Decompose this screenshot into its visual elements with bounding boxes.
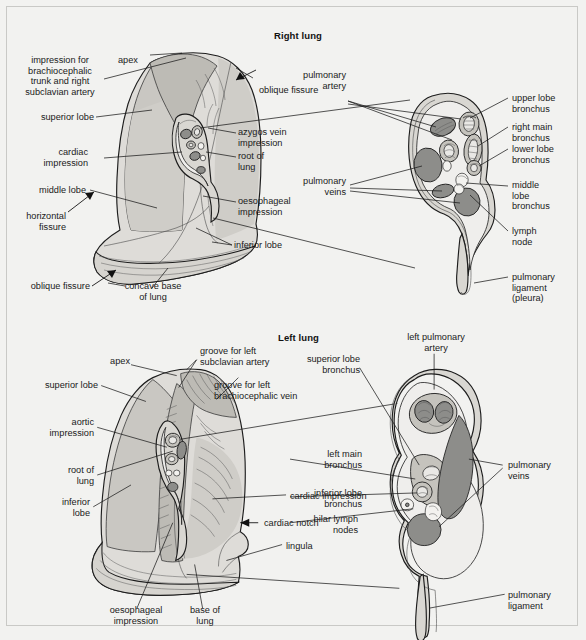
label-aortic-impression: aortic impression xyxy=(10,417,94,438)
label-pulmonary-artery-right: pulmonary artery xyxy=(278,70,346,91)
right-hilum-enlarged xyxy=(409,93,495,294)
label-hilar-lymph-nodes: hilar lymph nodes xyxy=(268,514,358,535)
label-inferior-lobe-right: inferior lobe xyxy=(234,240,282,251)
label-oblique-fissure-bottom: oblique fissure xyxy=(12,281,90,292)
label-left-main-bronchus: left main bronchus xyxy=(288,449,362,470)
label-pulmonary-ligament-left: pulmonary ligament xyxy=(508,590,551,611)
label-pulmonary-ligament-pleura: pulmonary ligament (pleura) xyxy=(512,272,555,304)
label-middle-lobe-bronchus: middle lobe bronchus xyxy=(512,180,550,212)
label-middle-lobe: middle lobe xyxy=(8,185,86,196)
label-upper-lobe-bronchus: upper lobe bronchus xyxy=(512,93,555,114)
label-base-of-lung: base of lung xyxy=(176,605,234,626)
label-oesophageal-impression-left: oesophageal impression xyxy=(94,605,178,626)
label-oesophageal-impression-right: oesophageal impression xyxy=(238,196,291,217)
label-lingula: lingula xyxy=(286,541,313,552)
label-inferior-lobe-bronchus: inferior lobe bronchus xyxy=(276,488,362,509)
label-left-pulmonary-artery: left pulmonary artery xyxy=(390,332,482,353)
label-superior-lobe-left: superior lobe xyxy=(18,380,98,391)
panel-title-left-lung: Left lung xyxy=(278,332,319,343)
label-groove-left-brachiocephalic-vein: groove for left brachiocephalic vein xyxy=(214,380,297,401)
left-hilum-enlarged xyxy=(390,369,483,640)
label-horizontal-fissure: horizontal fissure xyxy=(4,211,66,232)
label-apex-right: apex xyxy=(118,55,138,66)
label-superior-lobe-right: superior lobe xyxy=(14,112,94,123)
lung-anatomy-figure: Right lung impression for brachiocephali… xyxy=(0,0,586,640)
label-pulmonary-veins-left: pulmonary veins xyxy=(508,460,551,481)
panel-right-lung: Right lung impression for brachiocephali… xyxy=(0,0,586,320)
label-inferior-lobe-left: inferior lobe xyxy=(22,497,90,518)
label-right-main-bronchus: right main bronchus xyxy=(512,122,552,143)
label-impression-brachiocephalic: impression for brachiocephalic trunk and… xyxy=(14,55,106,97)
panel-title-right-lung: Right lung xyxy=(274,30,322,41)
left-lung-medial-surface xyxy=(92,369,248,595)
label-cardiac-impression-right: cardiac impression xyxy=(8,147,88,168)
label-root-of-lung-right: root of lung xyxy=(238,151,264,172)
label-pulmonary-veins-right: pulmonary veins xyxy=(278,176,346,197)
label-apex-left: apex xyxy=(82,356,130,367)
label-lymph-node: lymph node xyxy=(512,226,537,247)
label-azygos-vein-impression: azygos vein impression xyxy=(238,127,287,148)
label-root-of-lung-left: root of lung xyxy=(22,465,94,486)
label-groove-left-subclavian-artery: groove for left subclavian artery xyxy=(200,346,269,367)
label-superior-lobe-bronchus: superior lobe bronchus xyxy=(278,354,360,375)
label-concave-base-of-lung: concave base of lung xyxy=(112,281,194,302)
label-lower-lobe-bronchus: lower lobe bronchus xyxy=(512,144,554,165)
panel-left-lung: Left lung apex groove for left subclavia… xyxy=(0,318,586,638)
